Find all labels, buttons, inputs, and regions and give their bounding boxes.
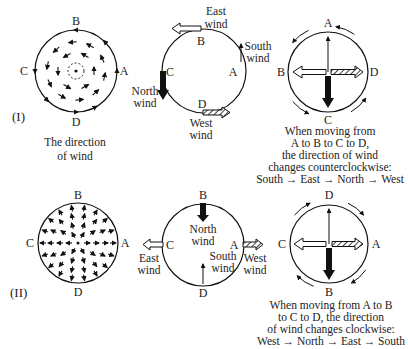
cw-arrow: [348, 203, 363, 215]
north-wind-arrow: [323, 248, 335, 280]
rim-arrow: [104, 41, 107, 44]
point-label-right: A: [372, 237, 381, 251]
point-label-right: A: [121, 236, 130, 250]
wind-vector-arrow: [83, 257, 85, 263]
panel-label: (II): [10, 285, 27, 300]
wind-vector-arrow: [64, 53, 71, 57]
wind-vector-arrow: [69, 42, 77, 43]
wind-vector-arrow: [49, 219, 54, 223]
point-label-left: C: [26, 236, 34, 250]
wind-label: wind: [244, 264, 267, 276]
wind-vector-arrow: [48, 79, 51, 86]
wind-vector-arrow: [108, 254, 114, 256]
wind-vector-arrow: [42, 254, 48, 256]
divergence-field: B C A D: [26, 188, 130, 299]
point-label-bottom: D: [74, 285, 83, 299]
wind-vector-arrow: [51, 230, 56, 233]
wind-label: wind: [134, 97, 157, 109]
ccw-arrow: [351, 98, 366, 111]
wind-vector-arrow: [59, 220, 63, 225]
point-label-left: C: [166, 65, 174, 79]
point-label-top: D: [325, 188, 334, 202]
wind-vector-arrow: [61, 231, 66, 235]
wind-vector-arrow: [90, 252, 95, 256]
point-label-bottom: B: [325, 285, 333, 299]
wind-label: East: [206, 5, 227, 17]
wind-vector-arrow: [72, 257, 74, 263]
north-wind-arrow: [197, 203, 209, 222]
wind-vector-arrow: [90, 231, 95, 235]
wind-vector-arrow: [101, 55, 104, 62]
wind-label: West: [244, 252, 268, 264]
wind-vector-arrow: [83, 223, 85, 229]
wind-vector-arrow: [71, 275, 72, 281]
wind-vector-arrow: [42, 230, 48, 232]
point-label-left: C: [278, 237, 286, 251]
panel-1: B C A D (I) The direction of wind B A C …: [12, 5, 405, 185]
ccw-arrow: [293, 102, 309, 114]
wind-vector-arrow: [100, 253, 105, 256]
point-label-bottom: D: [72, 115, 81, 129]
cw-arrow: [352, 270, 366, 283]
compass-diagram: A B C D: [277, 16, 379, 127]
wind-label: West: [190, 117, 214, 129]
point-label-left: C: [20, 64, 28, 78]
wind-label: South: [245, 40, 272, 52]
point-label-top: B: [72, 14, 80, 28]
wind-vector-arrow: [94, 210, 97, 215]
wind-circle: B A C D East wind South wind North wind: [132, 5, 272, 141]
wind-vector-arrow: [103, 219, 108, 223]
compass-diagram: D C B A: [278, 188, 381, 299]
wind-vector-arrow: [53, 47, 59, 52]
wind-vector-arrow: [82, 53, 89, 57]
description-line: the direction of wind: [282, 149, 378, 161]
wind-label: wind: [192, 235, 215, 247]
point-label-top: B: [74, 188, 82, 202]
description-line: South → East → North → West: [256, 173, 405, 185]
wind-label: North: [190, 223, 217, 235]
wind-vector-arrow: [59, 210, 62, 215]
point-label-bottom: D: [198, 97, 207, 111]
wind-vector-arrow: [64, 85, 71, 89]
wind-label: wind: [138, 264, 161, 276]
point-label-right: A: [120, 64, 129, 78]
east-wind-arrow: [293, 66, 326, 78]
east-wind-arrow: [294, 238, 326, 250]
divergence-arrows: [40, 206, 116, 281]
wind-vector-arrow: [72, 248, 75, 253]
field-caption-line: of wind: [57, 150, 93, 162]
wind-vector-arrow: [93, 90, 99, 95]
wind-vector-arrow: [51, 253, 56, 256]
wind-vector-arrow: [108, 230, 114, 232]
west-wind-arrow: [331, 66, 363, 78]
center-dot: [77, 242, 80, 245]
wind-vector-arrow: [81, 233, 84, 238]
wind-vector-arrow: [49, 264, 54, 268]
wind-vector-arrow: [59, 262, 63, 267]
cw-arrow: [297, 276, 313, 286]
wind-label: North: [132, 85, 159, 97]
east-wind-arrow: [143, 239, 163, 250]
point-label-top: A: [324, 16, 333, 30]
point-label-top: B: [199, 188, 207, 202]
wind-vector-arrow: [93, 262, 97, 267]
center-dot: [74, 69, 77, 72]
west-wind-arrow: [332, 238, 363, 250]
north-wind-arrow: [322, 76, 334, 108]
wind-label: East: [139, 252, 160, 264]
wind-vector-arrow: [83, 214, 84, 220]
point-label-left: C: [166, 238, 174, 252]
panel-label: (I): [12, 109, 25, 124]
wind-vector-arrow: [72, 233, 75, 238]
point-label-right: A: [229, 65, 238, 79]
wind-vector-arrow: [47, 61, 49, 69]
wind-vector-arrow: [71, 206, 72, 212]
wind-vector-arrow: [61, 252, 66, 256]
wind-vector-arrow: [59, 271, 62, 276]
wind-circle: B A C D North wind East wind West wind S…: [138, 188, 268, 300]
description-line: West → North → East → South: [257, 335, 405, 347]
rim-arrow: [46, 99, 49, 102]
wind-vector-arrow: [75, 99, 83, 100]
rotation-field: B C A D: [20, 14, 129, 129]
wind-vector-arrow: [84, 275, 85, 281]
